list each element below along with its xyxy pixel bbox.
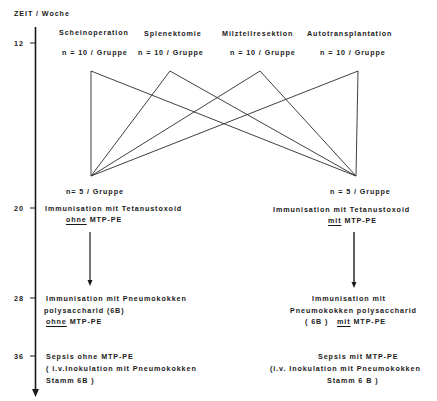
group-milzteilresektion: Milzteilresektion [222,29,293,38]
tick-label-20: 20 [14,204,24,213]
left-week28-line2: polysaccharid (6B) [44,306,125,315]
group-scheinoperation-n: n = 10 / Gruppe [62,48,128,57]
group-scheinoperation: Scheinoperation [59,28,129,37]
right-week20-rest: MTP-PE [344,216,377,225]
tick-label-36: 36 [14,352,24,361]
right-week36-line2: (i.v. Inokulation mit Pneumokokken [270,364,421,373]
right-week20-qualifier: mit [328,216,341,225]
axis-title: ZEIT / Woche [14,9,70,18]
left-week28-rest: MTP-PE [70,317,103,326]
group-splenektomie-n: n = 10 / Gruppe [138,48,204,57]
left-week20-qualifier: ohne [66,215,87,224]
left-week20-line2: ohne MTP-PE [66,215,122,224]
left-week28-line3: ohne MTP-PE [46,317,102,326]
right-week28-line1: Immunisation mit [312,294,386,303]
group-splenektomie: Splenektomie [144,29,202,38]
left-week28-qualifier: ohne [46,317,67,326]
group-autotransplantation-n: n = 10 / Gruppe [320,48,386,57]
right-week28-prefix: ( 6B ) [305,317,328,326]
tick-label-28: 28 [14,294,24,303]
right-week28-rest: MTP-PE [353,317,386,326]
tick-label-12: 12 [14,39,24,48]
allocation-lines [91,71,358,176]
right-n: n = 5 / Gruppe [330,187,391,196]
left-n: n= 5 / Gruppe [66,187,124,196]
right-week28-qualifier: mit [337,317,350,326]
right-week20-line1: Immunisation mit Tetanustoxoid [273,205,410,214]
left-week20-line1: Immunisation mit Tetanustoxoid [45,204,182,213]
group-autotransplantation: Autotransplantation [307,29,392,38]
left-week20-rest: MTP-PE [90,215,123,224]
left-week36-line1: Sepsis ohne MTP-PE [46,352,134,361]
right-week36-line1: Sepsis mit MTP-PE [318,352,398,361]
right-week28-line3: ( 6B ) mit MTP-PE [305,317,386,326]
left-week28-line1: Immunisation mit Pneumokokken [46,294,187,303]
diagram-lines [0,0,437,401]
right-week28-line2: Pneumokokken polysaccharid [290,306,417,315]
group-milzteilresektion-n: n = 10 / Gruppe [230,48,296,57]
right-week36-line3: Stamm 6 B ) [327,376,378,385]
timeline-arrowhead [32,389,39,397]
left-week36-line3: Stamm 6B ) [46,376,95,385]
right-week20-line2: mit MTP-PE [328,216,377,225]
left-week36-line2: ( i.v.Inokulation mit Pneumokokken [46,364,197,373]
